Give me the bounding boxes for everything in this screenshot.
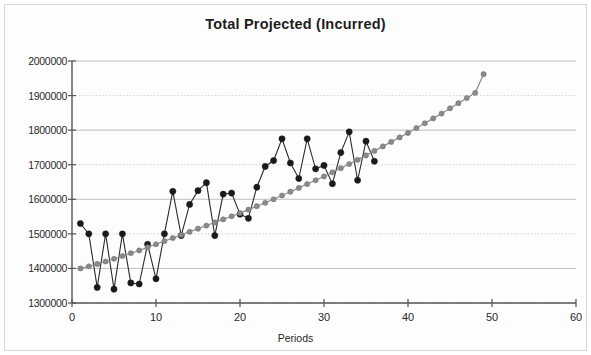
data-point-trend — [111, 256, 116, 261]
data-point-trend — [330, 170, 335, 175]
data-point-actual — [262, 163, 268, 169]
data-point-actual — [94, 284, 100, 290]
data-point-actual — [86, 231, 92, 237]
data-point-actual — [313, 166, 319, 172]
data-point-trend — [170, 235, 175, 240]
y-axis-tick-label: 1600000 — [28, 193, 67, 205]
x-axis-tick-label: 10 — [150, 311, 162, 323]
data-point-trend — [456, 101, 461, 106]
data-point-trend — [288, 189, 293, 194]
data-point-actual — [346, 129, 352, 135]
data-point-trend — [296, 185, 301, 190]
data-point-trend — [321, 174, 326, 179]
data-point-actual — [195, 188, 201, 194]
data-point-actual — [363, 138, 369, 144]
y-axis-tick-label: 1800000 — [28, 124, 67, 136]
data-point-trend — [279, 193, 284, 198]
data-point-trend — [187, 229, 192, 234]
x-axis-tick-label: 0 — [69, 311, 75, 323]
data-point-trend — [405, 130, 410, 135]
data-point-trend — [313, 178, 318, 183]
data-point-actual — [229, 190, 235, 196]
data-point-trend — [78, 266, 83, 271]
data-point-trend — [162, 239, 167, 244]
x-axis-title: Periods — [0, 332, 591, 344]
data-point-actual — [103, 231, 109, 237]
data-point-actual — [203, 180, 209, 186]
y-axis-tick-labels: 1300000140000015000001600000170000018000… — [0, 0, 70, 355]
data-point-actual — [321, 162, 327, 168]
data-point-trend — [481, 72, 486, 77]
data-point-trend — [137, 248, 142, 253]
series-line-actual — [80, 132, 374, 289]
data-point-actual — [136, 281, 142, 287]
data-point-trend — [355, 157, 360, 162]
data-point-trend — [128, 251, 133, 256]
data-point-trend — [212, 220, 217, 225]
data-point-trend — [221, 217, 226, 222]
data-point-actual — [355, 177, 361, 183]
data-point-trend — [380, 144, 385, 149]
data-point-trend — [153, 242, 158, 247]
data-point-trend — [422, 121, 427, 126]
data-point-actual — [119, 231, 125, 237]
data-point-actual — [187, 201, 193, 207]
data-point-trend — [246, 207, 251, 212]
data-point-trend — [195, 226, 200, 231]
data-point-trend — [397, 135, 402, 140]
data-point-actual — [279, 136, 285, 142]
data-point-actual — [77, 220, 83, 226]
data-point-trend — [179, 232, 184, 237]
x-axis-tick-label: 20 — [234, 311, 246, 323]
data-point-actual — [245, 215, 251, 221]
data-point-trend — [229, 214, 234, 219]
data-point-actual — [329, 181, 335, 187]
y-axis-tick-label: 1700000 — [28, 159, 67, 171]
data-point-trend — [254, 204, 259, 209]
data-point-actual — [212, 232, 218, 238]
data-point-trend — [338, 166, 343, 171]
y-axis-tick-label: 1400000 — [28, 262, 67, 274]
plot-canvas — [0, 0, 591, 355]
data-point-trend — [372, 148, 377, 153]
data-point-trend — [473, 90, 478, 95]
data-point-trend — [464, 95, 469, 100]
data-point-actual — [128, 280, 134, 286]
chart-screenshot: Total Projected (Incurred) 1300000140000… — [0, 0, 591, 355]
data-point-trend — [305, 181, 310, 186]
x-axis-tick-label: 30 — [318, 311, 330, 323]
data-point-trend — [103, 259, 108, 264]
data-point-trend — [439, 111, 444, 116]
data-point-actual — [296, 175, 302, 181]
data-point-actual — [338, 150, 344, 156]
data-point-actual — [287, 160, 293, 166]
data-point-trend — [271, 197, 276, 202]
data-point-actual — [220, 191, 226, 197]
x-axis-tick-label: 50 — [486, 311, 498, 323]
plot-area: 1300000140000015000001600000170000018000… — [0, 0, 591, 355]
data-point-trend — [145, 245, 150, 250]
y-axis-tick-label: 2000000 — [28, 55, 67, 67]
x-axis-tick-label: 60 — [570, 311, 582, 323]
y-axis-tick-label: 1500000 — [28, 228, 67, 240]
series-line-trend — [80, 74, 483, 268]
data-point-trend — [95, 261, 100, 266]
data-point-trend — [431, 116, 436, 121]
x-axis-tick-label: 40 — [402, 311, 414, 323]
data-point-actual — [153, 276, 159, 282]
data-point-actual — [304, 136, 310, 142]
y-axis-tick-label: 1300000 — [28, 297, 67, 309]
data-point-actual — [371, 158, 377, 164]
data-point-actual — [170, 188, 176, 194]
y-axis-tick-label: 1900000 — [28, 90, 67, 102]
data-point-actual — [111, 286, 117, 292]
data-point-trend — [363, 153, 368, 158]
data-point-actual — [254, 184, 260, 190]
data-point-trend — [86, 264, 91, 269]
data-point-trend — [237, 211, 242, 216]
data-point-trend — [447, 106, 452, 111]
data-point-trend — [204, 223, 209, 228]
data-point-trend — [389, 139, 394, 144]
data-point-trend — [120, 253, 125, 258]
data-point-actual — [271, 157, 277, 163]
